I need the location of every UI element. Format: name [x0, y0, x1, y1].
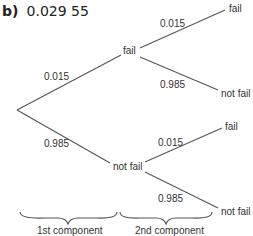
branch-fail-fail: [140, 10, 225, 48]
prob-fail-notfail: 0.985: [160, 79, 185, 90]
branch-root-notfail: [17, 110, 110, 163]
brace-1st-component: [20, 212, 117, 224]
branch-root-fail: [17, 55, 121, 110]
node-notfail-1: not fail: [113, 161, 142, 172]
prob-root-notfail: 0.985: [44, 138, 69, 149]
label-2nd-component: 2nd component: [135, 225, 204, 236]
leaf-fail-fail: fail: [229, 3, 242, 14]
node-fail-1: fail: [123, 45, 136, 56]
label-1st-component: 1st component: [37, 225, 103, 236]
prob-notfail-notfail: 0.985: [158, 193, 183, 204]
prob-notfail-fail: 0.015: [158, 137, 183, 148]
brace-2nd-component: [120, 212, 212, 224]
leaf-fail-notfail: not fail: [221, 88, 250, 99]
tree-branches: [0, 0, 253, 236]
branch-notfail-fail: [145, 128, 222, 162]
prob-root-fail: 0.015: [44, 71, 69, 82]
leaf-notfail-fail: fail: [225, 121, 238, 132]
prob-fail-fail: 0.015: [160, 18, 185, 29]
leaf-notfail-notfail: not fail: [221, 206, 250, 217]
